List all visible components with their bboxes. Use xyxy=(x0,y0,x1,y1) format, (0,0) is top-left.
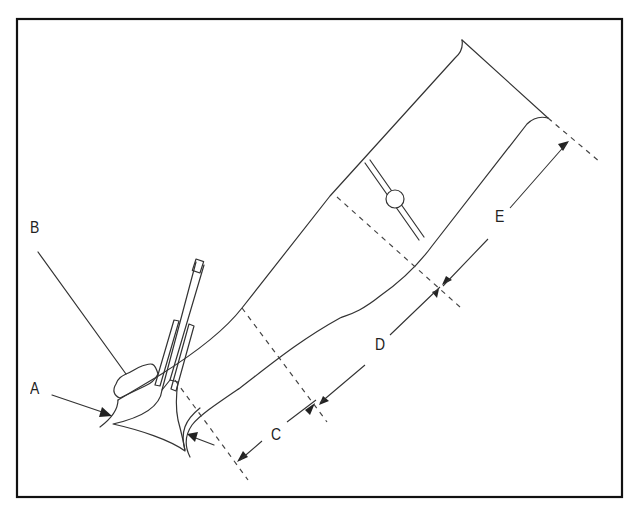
label-b: B xyxy=(30,219,39,236)
section-line-de xyxy=(337,197,460,307)
port-lower-wall xyxy=(186,117,548,457)
arrowhead-c-start xyxy=(237,451,248,462)
valve-stem xyxy=(162,262,204,390)
label-a: A xyxy=(30,380,39,397)
arrowhead-e-end xyxy=(558,141,569,151)
leader-line-a xyxy=(52,395,108,414)
diagram-frame xyxy=(17,19,622,497)
dimension-e xyxy=(443,143,567,286)
section-line-c xyxy=(175,380,248,480)
throttle-plate xyxy=(386,190,404,208)
arrowhead-e-start xyxy=(442,276,452,285)
label-e: E xyxy=(495,208,504,225)
arrowhead-a xyxy=(99,407,112,417)
section-line-cd xyxy=(242,308,327,422)
label-c: C xyxy=(271,426,281,443)
leader-line-seat xyxy=(193,437,214,445)
diagram-svg xyxy=(0,0,637,511)
port-flange-top xyxy=(462,40,548,118)
valve-guide-boss xyxy=(114,364,158,398)
diagram-canvas: B A C D E xyxy=(0,0,637,511)
label-d: D xyxy=(375,336,385,353)
arrowhead-seat xyxy=(187,432,198,442)
leader-line-b xyxy=(38,252,126,374)
port-upper-wall xyxy=(118,40,462,400)
